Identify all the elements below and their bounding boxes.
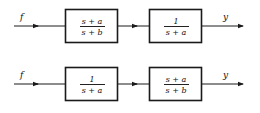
block-diagram-canvas (0, 0, 260, 113)
input-label-top: f (20, 12, 23, 22)
transfer-function-top-2: 1 s + a (150, 10, 202, 43)
denominator: s + a (164, 28, 189, 37)
input-label-bottom: f (20, 70, 23, 80)
denominator: s + b (163, 86, 188, 95)
numerator: s + a (80, 17, 105, 26)
denominator: s + b (79, 28, 104, 37)
transfer-function-top-1: s + a s + b (66, 10, 118, 43)
denominator: s + a (80, 86, 105, 95)
numerator: 1 (171, 17, 180, 26)
output-label-bottom: y (223, 70, 228, 80)
numerator: s + a (164, 75, 189, 84)
diagram-bottom (14, 68, 243, 101)
output-label-top: y (223, 12, 228, 22)
numerator: 1 (87, 75, 96, 84)
transfer-function-bottom-2: s + a s + b (150, 68, 202, 101)
transfer-function-bottom-1: 1 s + a (66, 68, 118, 101)
diagram-top (14, 10, 243, 43)
